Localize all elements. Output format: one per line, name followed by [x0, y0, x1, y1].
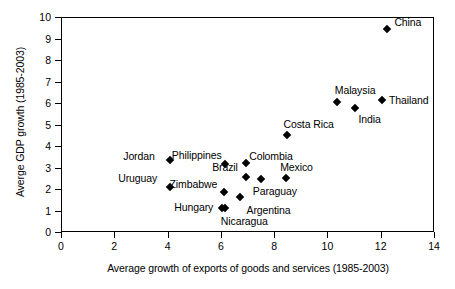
y-tick-label: 4: [26, 141, 51, 152]
x-tick-mark: [168, 232, 169, 238]
x-tick-label: 2: [102, 241, 126, 252]
data-point-label: Malaysia: [335, 85, 376, 96]
y-tick-label: 8: [26, 55, 51, 66]
x-tick-mark: [221, 232, 222, 238]
y-tick-label: 10: [26, 12, 51, 23]
x-tick-mark: [434, 232, 435, 238]
y-tick-label: 2: [26, 184, 51, 195]
x-tick-label: 10: [315, 241, 339, 252]
y-tick-label: 1: [26, 205, 51, 216]
data-point-label: Costa Rica: [283, 119, 333, 130]
y-tick-label: 5: [26, 119, 51, 130]
x-tick-mark: [274, 232, 275, 238]
x-tick-label: 4: [156, 241, 180, 252]
data-point-label: Uruguay: [118, 173, 157, 184]
x-tick-mark: [381, 232, 382, 238]
y-tick-label: 9: [26, 33, 51, 44]
y-tick-label: 0: [26, 227, 51, 238]
data-point-label: Colombia: [249, 151, 293, 162]
data-point-label: China: [394, 17, 421, 28]
data-point-label: Philippines: [172, 150, 222, 161]
data-point-label: Hungary: [174, 202, 213, 213]
x-tick-label: 6: [209, 241, 233, 252]
x-tick-label: 8: [262, 241, 286, 252]
x-tick-label: 0: [49, 241, 73, 252]
data-point-label: Brazil: [212, 162, 238, 173]
y-tick-label: 6: [26, 98, 51, 109]
data-point-label: Mexico: [280, 162, 313, 173]
data-point-label: India: [358, 114, 380, 125]
x-tick-mark: [327, 232, 328, 238]
data-point-label: Argentina: [247, 205, 291, 216]
x-axis-title: Average growth of exports of goods and s…: [61, 262, 435, 274]
x-tick-mark: [61, 232, 62, 238]
y-tick-label: 7: [26, 76, 51, 87]
x-tick-mark: [114, 232, 115, 238]
data-point-label: Jordan: [123, 151, 155, 162]
data-point-label: Paraguay: [253, 186, 297, 197]
data-point-label: Zimbabwe: [170, 179, 218, 190]
x-tick-label: 12: [369, 241, 393, 252]
x-tick-label: 14: [422, 241, 446, 252]
y-tick-label: 3: [26, 162, 51, 173]
data-point-label: Nicaragua: [221, 216, 268, 227]
data-point-label: Thailand: [389, 95, 428, 106]
scatter-chart-figure: Averge GDP growth (1985-2003) Average gr…: [0, 0, 455, 289]
